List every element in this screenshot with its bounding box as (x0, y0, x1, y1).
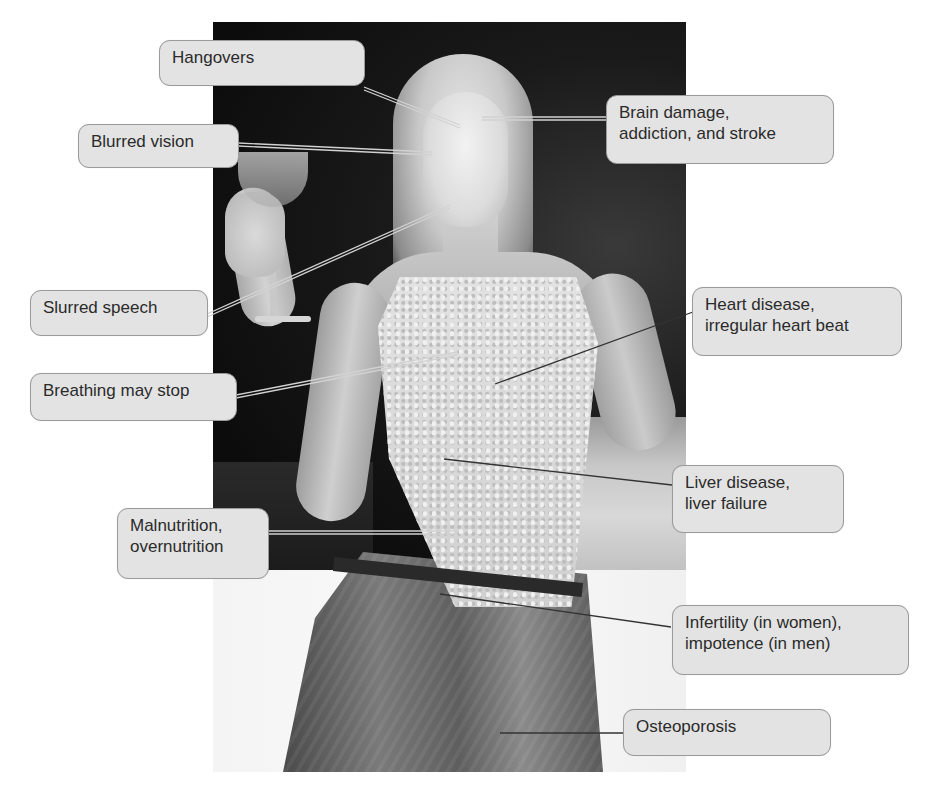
label-heart-disease: Heart disease, irregular heart beat (692, 287, 902, 356)
label-hangovers: Hangovers (159, 40, 365, 86)
label-slurred-speech: Slurred speech (30, 290, 208, 336)
label-infertility: Infertility (in women), impotence (in me… (672, 605, 909, 675)
label-osteoporosis: Osteoporosis (623, 709, 831, 756)
label-breathing-may-stop: Breathing may stop (30, 373, 237, 421)
label-liver-disease: Liver disease, liver failure (672, 465, 844, 533)
label-blurred-vision: Blurred vision (78, 124, 239, 168)
glass-foot (255, 316, 311, 322)
face (423, 92, 508, 227)
label-malnutrition: Malnutrition, overnutrition (117, 508, 269, 579)
label-brain-damage: Brain damage, addiction, and stroke (606, 95, 834, 164)
